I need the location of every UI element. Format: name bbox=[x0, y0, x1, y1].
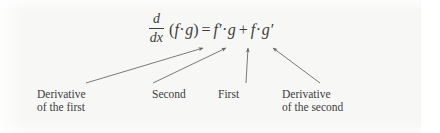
arrow-to-derivative-of-first bbox=[86, 48, 203, 83]
label-line-1: Second bbox=[152, 88, 186, 100]
arrow-to-second bbox=[153, 48, 226, 83]
label-line-1: Derivative bbox=[37, 88, 86, 100]
arrow-to-derivative-of-second bbox=[273, 48, 320, 83]
arrow-to-first bbox=[246, 48, 248, 83]
label-first: First bbox=[218, 88, 239, 101]
label-derivative-of-the-second: Derivative of the second bbox=[282, 88, 343, 114]
label-line-1: First bbox=[218, 88, 239, 100]
label-derivative-of-the-first: Derivative of the first bbox=[37, 88, 86, 114]
label-line-2: of the second bbox=[282, 101, 343, 114]
label-second: Second bbox=[152, 88, 186, 101]
product-rule-figure: d dx (f·g)=f′·g+f·g′ Derivative of the f… bbox=[0, 0, 440, 133]
label-line-2: of the first bbox=[37, 101, 86, 114]
label-line-1: Derivative bbox=[282, 88, 331, 100]
